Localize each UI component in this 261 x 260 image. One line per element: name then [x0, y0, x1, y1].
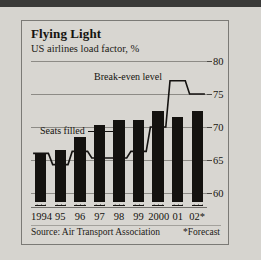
x-label-96: 96: [70, 211, 90, 222]
seats-filled-annotation-label: Seats filled: [40, 125, 85, 136]
seats-filled-leader-drop: [115, 131, 116, 149]
x-label-01: 01: [168, 211, 188, 222]
chart-title: Flying Light: [31, 26, 101, 42]
source-note: Source: Air Transport Association: [31, 227, 160, 237]
chart-subtitle: US airlines load factor, %: [31, 43, 139, 54]
x-label-95: 95: [51, 211, 71, 222]
x-label-98: 98: [109, 211, 129, 222]
x-label-2000: 2000: [148, 211, 168, 222]
page-background: Flying Light US airlines load factor, % …: [0, 7, 261, 260]
x-label-99: 99: [129, 211, 149, 222]
seats-filled-leader-line: [88, 131, 116, 132]
x-label-1994: 1994: [31, 211, 51, 222]
page-top-rule: [0, 0, 261, 7]
chart-figure: Flying Light US airlines load factor, % …: [21, 20, 229, 245]
x-label-97: 97: [90, 211, 110, 222]
footer-divider: [31, 225, 221, 226]
plot-area: 80 75 70 65 60 Break-even level Seats fi…: [31, 61, 221, 207]
forecast-note: *Forecast: [183, 227, 220, 237]
x-axis-line: [31, 207, 207, 208]
x-label-02: 02*: [187, 211, 207, 222]
breakeven-annotation-label: Break-even level: [94, 71, 162, 82]
